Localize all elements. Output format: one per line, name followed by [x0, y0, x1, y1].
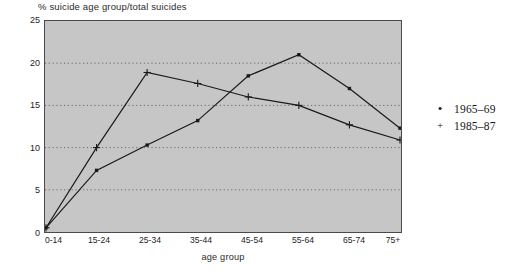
data-point-dot: [145, 143, 148, 146]
x-tick-label: 0-14: [45, 235, 62, 245]
x-tick-label: 75+: [386, 235, 401, 245]
y-tick-label: 15: [20, 100, 40, 110]
series-line: [46, 55, 400, 228]
data-point-dot: [95, 169, 98, 172]
chart-title: % suicide age group/total suicides: [38, 1, 187, 12]
data-point-dot: [196, 119, 199, 122]
x-tick-label: 35-44: [190, 235, 212, 245]
series-line: [46, 72, 400, 227]
x-axis-title: age group: [44, 252, 402, 262]
x-tick-label: 15-24: [88, 235, 110, 245]
dot-marker-icon: •: [432, 102, 448, 115]
series-plus: [45, 69, 401, 232]
chart-figure: % suicide age group/total suicides 25 20…: [0, 0, 525, 278]
series-dot: [45, 53, 401, 229]
chart-legend: • 1965–69 + 1985–87: [432, 100, 496, 134]
data-point-dot: [398, 126, 401, 129]
plot-svg: [45, 21, 401, 232]
y-tick-label: 10: [20, 143, 40, 153]
y-tick-label: 25: [20, 15, 40, 25]
x-tick-label: 25-34: [139, 235, 161, 245]
x-tick-label: 65-74: [343, 235, 365, 245]
data-point-dot: [348, 87, 351, 90]
data-point-dot: [297, 53, 300, 56]
x-tick-label: 45-54: [241, 235, 263, 245]
legend-item-1965-69: • 1965–69: [432, 100, 496, 117]
y-axis-tick-labels: 25 20 15 10 5 0: [18, 20, 40, 233]
legend-item-1985-87: + 1985–87: [432, 117, 496, 134]
y-tick-label: 20: [20, 58, 40, 68]
x-tick-label: 55-64: [292, 235, 314, 245]
x-axis-tick-labels: 0-14 15-24 25-34 35-44 45-54 55-64 65-74…: [44, 234, 402, 250]
y-tick-label: 5: [20, 185, 40, 195]
legend-label: 1985–87: [448, 120, 496, 132]
plot-area: [44, 20, 402, 233]
y-tick-label: 0: [20, 228, 40, 238]
plus-marker-icon: +: [432, 120, 448, 131]
legend-label: 1965–69: [448, 103, 496, 115]
data-point-dot: [247, 74, 250, 77]
